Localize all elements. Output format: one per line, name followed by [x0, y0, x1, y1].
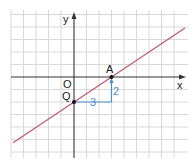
x-axis-label: x [177, 79, 183, 91]
run-label: 3 [90, 96, 96, 108]
y-axis-label: y [63, 13, 69, 25]
rise-label: 2 [113, 85, 119, 97]
coordinate-diagram: y x O Q A 3 2 [0, 0, 196, 162]
grid [11, 10, 188, 158]
point-a-label: A [106, 63, 114, 75]
point-q-label: Q [62, 90, 71, 102]
point-a [110, 75, 114, 79]
y-axis-arrow-icon [72, 12, 77, 19]
origin-label: O [63, 78, 72, 90]
point-q [72, 100, 76, 104]
y-axis [72, 12, 77, 158]
